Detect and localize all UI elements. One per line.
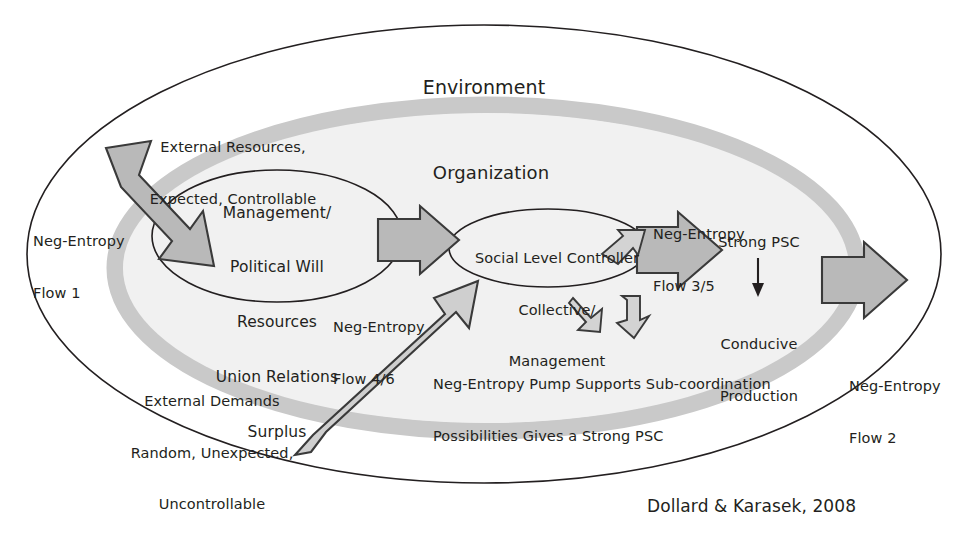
flow-4-6-line-1: Neg-Entropy (333, 319, 473, 336)
external-demands-line-2: Random, Unexpected, (112, 445, 312, 462)
external-demands-label: External Demands Random, Unexpected, Unc… (112, 359, 312, 547)
flow-1-line-1: Neg-Entropy (33, 233, 163, 250)
environment-label: Environment (392, 76, 576, 98)
flow-1-line-2: Flow 1 (33, 285, 163, 302)
flow-2-label: Neg-Entropy Flow 2 (849, 344, 968, 481)
organization-label: Organization (406, 162, 576, 183)
flow-2-line-2: Flow 2 (849, 430, 968, 447)
credit-label: Dollard & Karasek, 2008 (647, 496, 947, 516)
flow-3-5-line-2: Flow 3/5 (653, 278, 793, 295)
external-demands-line-3: Uncontrollable (112, 496, 312, 513)
pump-note-label: Neg-Entropy Pump Supports Sub-coordinati… (433, 342, 833, 479)
management-line-2: Political Will (177, 258, 377, 276)
strong-psc-label: Strong PSC (703, 234, 815, 251)
pump-note-line-1: Neg-Entropy Pump Supports Sub-coordinati… (433, 376, 833, 393)
pump-note-line-2: Possibilities Gives a Strong PSC (433, 428, 833, 445)
slc-line-2: Collective/ (462, 302, 652, 319)
external-demands-line-1: External Demands (112, 393, 312, 410)
flow-1-label: Neg-Entropy Flow 1 (33, 199, 163, 336)
external-resources-line-1: External Resources, (128, 139, 338, 156)
diagram-canvas: Environment Organization External Resour… (0, 0, 968, 554)
slc-line-1: Social Level Controller (462, 250, 652, 267)
flow-2-line-1: Neg-Entropy (849, 378, 968, 395)
management-line-1: Management/ (177, 204, 377, 222)
